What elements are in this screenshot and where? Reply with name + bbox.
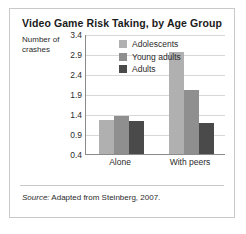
- bar: [199, 123, 214, 154]
- y-axis-tick-label: 0.4: [70, 150, 82, 160]
- y-axis-tick-label: 1.9: [70, 90, 82, 100]
- legend-swatch: [119, 40, 127, 48]
- legend-swatch: [119, 65, 127, 73]
- footer-divider: [20, 185, 224, 186]
- legend-label: Young adults: [132, 52, 181, 62]
- x-axis-tick-label: Alone: [109, 157, 131, 167]
- legend-item: Adolescents: [119, 38, 219, 51]
- y-axis-tick-label: 2.4: [70, 70, 82, 80]
- plot-area: AdolescentsYoung adultsAdults: [85, 35, 225, 155]
- y-axis-tick-label: 1.4: [70, 110, 82, 120]
- source-label: Source:: [22, 193, 50, 202]
- x-axis-tick-label: With peers: [170, 157, 211, 167]
- y-axis-tick-label: 2.9: [70, 50, 82, 60]
- legend-label: Adolescents: [132, 39, 178, 49]
- y-axis-tick-label: 0.9: [70, 130, 82, 140]
- source-note: Source: Adapted from Steinberg, 2007.: [22, 193, 226, 202]
- chart-title: Video Game Risk Taking, by Age Group: [22, 17, 228, 29]
- legend-item: Young adults: [119, 51, 219, 64]
- x-axis-ticks: AloneWith peers: [85, 157, 225, 171]
- source-text: Adapted from Steinberg, 2007.: [50, 193, 161, 202]
- legend-swatch: [119, 53, 127, 61]
- plot-area-wrapper: 3.42.92.41.91.40.90.4 AdolescentsYoung a…: [22, 35, 226, 170]
- chart-figure: Video Game Risk Taking, by Age Group Num…: [9, 8, 235, 218]
- y-axis-tick-label: 3.4: [70, 30, 82, 40]
- y-axis-ticks: 3.42.92.41.91.40.90.4: [62, 35, 84, 155]
- legend-label: Adults: [132, 64, 156, 74]
- bar: [184, 90, 199, 154]
- legend: AdolescentsYoung adultsAdults: [119, 38, 219, 76]
- legend-item: Adults: [119, 63, 219, 76]
